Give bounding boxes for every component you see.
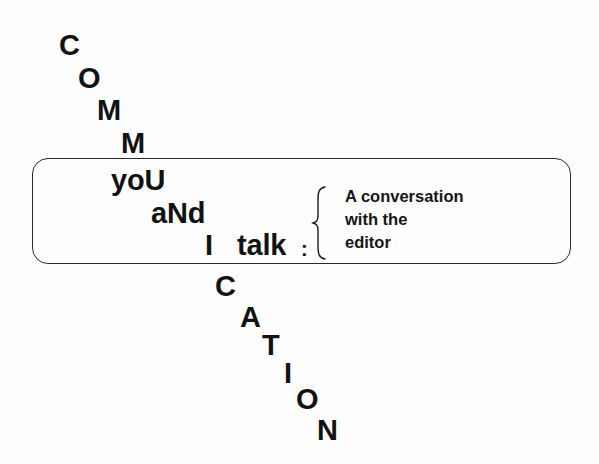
subtitle-line-1: A conversation [345,185,464,208]
title-letter-m-second: M [121,129,145,158]
title-letter-t: T [262,331,280,360]
title-letter-a: A [240,303,261,332]
title-word-and: aNd [151,199,205,228]
title-word-talk: talk [237,231,286,260]
title-word-i: I [205,231,213,260]
title-colon: : [301,239,308,259]
title-letter-c-bottom: C [215,272,236,301]
title-letter-i-bottom: I [284,359,292,388]
title-letter-c-top: C [59,31,80,60]
title-letter-m-first: M [97,96,121,125]
title-letter-n: N [317,416,338,445]
subtitle-line-3: editor [345,231,464,254]
subtitle-line-2: with the [345,208,464,231]
page-canvas: C O M M yoU aNd I talk : A conversation … [0,0,599,464]
title-letter-o-bottom: O [296,385,319,414]
subtitle-block: A conversation with the editor [345,185,464,254]
curly-brace-icon [311,186,327,260]
title-word-you: yoU [111,166,165,195]
title-letter-o-top: O [78,64,101,93]
